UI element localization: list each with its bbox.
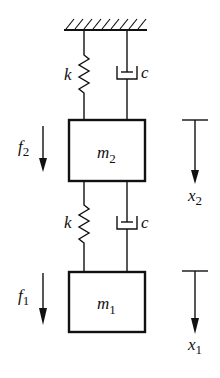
upper-spring-label: k <box>64 65 72 84</box>
displacement-x2-label: x2 <box>187 186 202 208</box>
force-f2-label: f2 <box>18 137 29 159</box>
upper-damper <box>117 30 137 120</box>
ground-support <box>64 19 147 30</box>
lower-spring <box>79 181 89 272</box>
mass-m1-label: m1 <box>97 294 116 317</box>
lower-damper <box>117 181 137 272</box>
upper-spring <box>79 30 89 120</box>
upper-damper-label: c <box>141 63 149 82</box>
force-f2-arrow <box>39 126 47 172</box>
spring-mass-damper-diagram: k c m2 f2 x2 k c m1 f1 <box>0 0 220 378</box>
mass-m2-label: m2 <box>97 143 116 166</box>
force-f1-label: f1 <box>18 286 29 308</box>
lower-spring-label: k <box>64 213 72 232</box>
force-f1-arrow <box>39 273 47 325</box>
displacement-x1-label: x1 <box>187 335 202 357</box>
lower-damper-label: c <box>141 213 149 232</box>
displacement-x1-arrow <box>182 271 208 334</box>
displacement-x2-arrow <box>182 120 208 184</box>
